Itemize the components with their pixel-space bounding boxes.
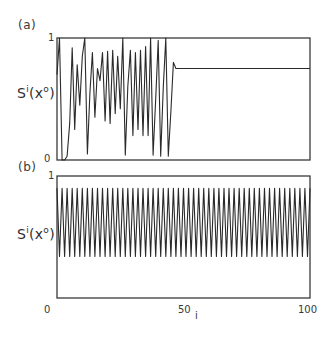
panel-b-series-line bbox=[57, 188, 310, 256]
panel-a-series-line bbox=[57, 38, 310, 160]
panel-a-frame bbox=[57, 38, 310, 160]
chart-canvas bbox=[0, 0, 333, 340]
